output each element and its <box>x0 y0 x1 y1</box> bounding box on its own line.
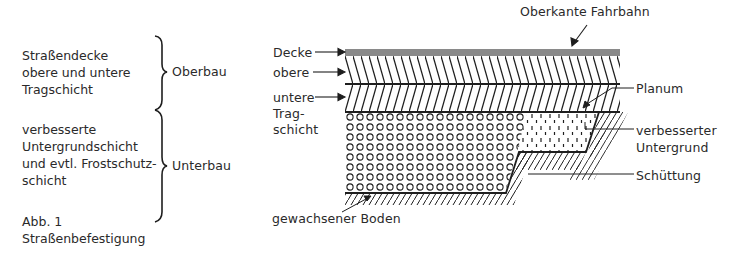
cross-section-drawing <box>0 0 735 258</box>
verbesserter-untergrund-fill <box>517 112 599 152</box>
road-cross-section-figure: Straßendecke obere und untere Tragschich… <box>0 0 735 258</box>
obere-tragschicht-layer <box>345 56 620 84</box>
decke-layer <box>345 49 620 56</box>
schuettung-fill <box>345 112 527 193</box>
untere-tragschicht-layer <box>345 84 620 112</box>
brace-oberbau <box>155 36 167 110</box>
brace-unterbau <box>155 110 167 222</box>
